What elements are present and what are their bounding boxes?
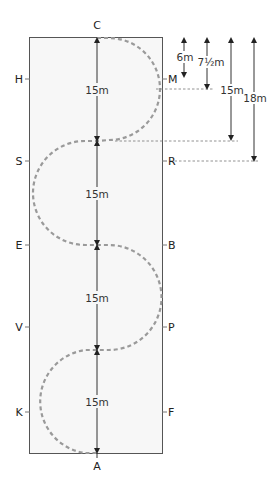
measure-18m: 18m	[243, 92, 267, 104]
letter-m: M	[168, 73, 178, 86]
letter-f: F	[168, 406, 174, 419]
letter-c: C	[93, 19, 101, 32]
letter-e: E	[16, 239, 23, 252]
measure-6m: 6m	[177, 51, 194, 63]
letter-a: A	[93, 460, 101, 473]
arena-diagram: 15m 15m 15m 15m 6m 7½m 15m 18m C A H S E…	[0, 0, 276, 494]
measure-loop-2: 15m	[85, 188, 109, 200]
measure-loop-1: 15m	[85, 84, 109, 96]
letter-b: B	[168, 239, 176, 252]
letter-v: V	[15, 321, 23, 334]
arena-rectangle	[30, 38, 163, 454]
measure-loop-4: 15m	[85, 396, 109, 408]
measure-loop-3: 15m	[85, 292, 109, 304]
measure-15m: 15m	[220, 84, 244, 96]
letter-k: K	[15, 406, 23, 419]
measure-7-5m: 7½m	[197, 56, 224, 68]
letter-r: R	[168, 155, 176, 168]
letter-s: S	[16, 155, 23, 168]
letter-h: H	[15, 73, 23, 86]
letter-p: P	[168, 321, 175, 334]
